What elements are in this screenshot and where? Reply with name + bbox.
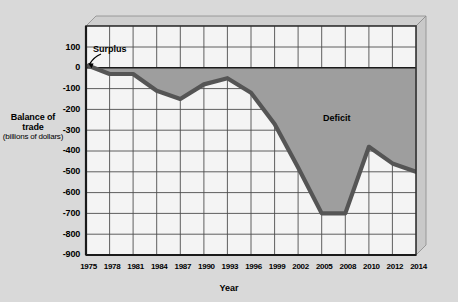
surplus-annotation-label: Surplus [93, 44, 127, 54]
y-tick-label-m700: -700 [46, 208, 80, 218]
deficit-annotation-label: Deficit [323, 113, 351, 123]
y-tick-label-m800: -800 [46, 229, 80, 239]
y-tick-label-m300: -300 [46, 125, 80, 135]
x-axis-title: Year [0, 283, 458, 293]
y-tick-label-m500: -500 [46, 166, 80, 176]
y-tick-label-0: 0 [46, 62, 80, 72]
y-tick-label-m100: -100 [46, 83, 80, 93]
y-tick-label-m200: -200 [46, 104, 80, 114]
bevel-top-face [86, 16, 426, 26]
x-tick-label-2014: 2014 [404, 262, 434, 271]
y-tick-label-100: 100 [46, 42, 80, 52]
y-tick-label-m600: -600 [46, 187, 80, 197]
bevel-right-face [416, 16, 426, 255]
y-tick-label-m400: -400 [46, 145, 80, 155]
y-tick-label-m900: -900 [46, 249, 80, 259]
